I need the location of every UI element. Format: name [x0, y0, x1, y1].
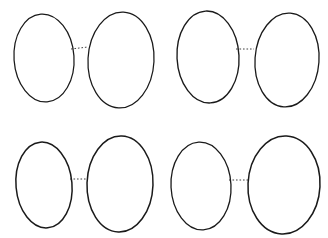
egg-plate-canvas — [0, 0, 328, 238]
egg-plate-figure — [0, 0, 328, 238]
